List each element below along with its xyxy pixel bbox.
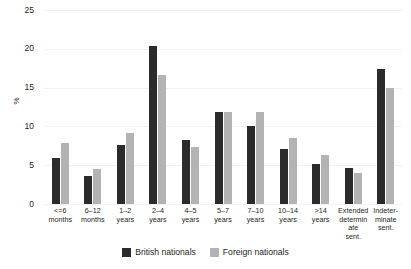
bar-group bbox=[304, 10, 337, 204]
chart-legend: British nationalsForeign nationals bbox=[0, 247, 411, 257]
x-axis-tick-label-line: years bbox=[175, 216, 206, 225]
legend-label: British nationals bbox=[135, 247, 196, 257]
bar bbox=[61, 143, 69, 204]
x-axis-tick-label-line: sent. bbox=[370, 224, 401, 233]
x-axis-tick-label: 2–4years bbox=[142, 207, 175, 241]
bar-group bbox=[44, 10, 77, 204]
x-axis-tick-label-line: years bbox=[305, 216, 336, 225]
plot-area bbox=[44, 10, 402, 204]
x-axis-tick-label: 6–12months bbox=[77, 207, 110, 241]
bar-group bbox=[77, 10, 110, 204]
x-axis-tick-label: 5–7years bbox=[207, 207, 240, 241]
bar bbox=[386, 88, 394, 204]
bar-chart: % 0510152025 <=6months6–12months1–2years… bbox=[0, 0, 411, 269]
y-axis-tick-label: 25 bbox=[4, 6, 34, 15]
bar-group bbox=[369, 10, 402, 204]
bar bbox=[52, 158, 60, 204]
legend-entry: British nationals bbox=[122, 247, 196, 257]
bar bbox=[280, 149, 288, 204]
x-axis-tick-label-line: years bbox=[143, 216, 174, 225]
y-axis-tick-label: 5 bbox=[4, 161, 34, 170]
gridline bbox=[44, 204, 402, 205]
bar bbox=[289, 138, 297, 204]
bar bbox=[345, 168, 353, 204]
legend-swatch-icon bbox=[210, 248, 219, 257]
x-axis-tick-label-line: years bbox=[208, 216, 239, 225]
legend-label: Foreign nationals bbox=[223, 247, 289, 257]
bar bbox=[117, 145, 125, 204]
bar-group bbox=[272, 10, 305, 204]
x-axis-tick-label-line: sent. bbox=[338, 233, 369, 242]
bar bbox=[93, 169, 101, 204]
y-axis-tick-label: 15 bbox=[4, 83, 34, 92]
x-axis-tick-label-line: months bbox=[78, 216, 109, 225]
bar bbox=[191, 147, 199, 204]
bar-group bbox=[337, 10, 370, 204]
x-axis-tick-label: 1–2years bbox=[109, 207, 142, 241]
x-axis-tick-label: 4–5years bbox=[174, 207, 207, 241]
x-axis-tick-label-line: years bbox=[240, 216, 271, 225]
bar-group bbox=[174, 10, 207, 204]
x-axis-tick-label: <=6months bbox=[44, 207, 77, 241]
x-axis-tick-label-line: years bbox=[273, 216, 304, 225]
legend-entry: Foreign nationals bbox=[210, 247, 289, 257]
bar bbox=[182, 140, 190, 204]
bar bbox=[256, 112, 264, 204]
x-axis-tick-label: 7–10years bbox=[239, 207, 272, 241]
x-axis-tick-label-line: determinate bbox=[338, 216, 369, 233]
legend-swatch-icon bbox=[122, 248, 131, 257]
bar bbox=[149, 46, 157, 204]
bar-group bbox=[109, 10, 142, 204]
bar bbox=[224, 112, 232, 204]
bar bbox=[312, 164, 320, 204]
y-axis-tick-label: 0 bbox=[4, 200, 34, 209]
y-axis-tick-label: 10 bbox=[4, 122, 34, 131]
bar bbox=[158, 75, 166, 204]
x-axis-tick-label: Indeter-minatesent. bbox=[369, 207, 402, 241]
bar-group bbox=[239, 10, 272, 204]
bar-group bbox=[142, 10, 175, 204]
y-axis-tick-label: 20 bbox=[4, 44, 34, 53]
y-axis-title: % bbox=[12, 90, 22, 112]
bar bbox=[247, 126, 255, 204]
x-axis-tick-label-line: months bbox=[45, 216, 76, 225]
bar bbox=[354, 173, 362, 204]
x-axis-tick-label: >14years bbox=[304, 207, 337, 241]
x-axis-tick-label: 10–14years bbox=[272, 207, 305, 241]
bar bbox=[84, 176, 92, 204]
bar bbox=[126, 133, 134, 204]
x-axis-tick-label: Extendeddeterminatesent. bbox=[337, 207, 370, 241]
bar-group bbox=[207, 10, 240, 204]
x-axis-tick-label-line: years bbox=[110, 216, 141, 225]
bar bbox=[215, 112, 223, 204]
bar bbox=[377, 69, 385, 204]
x-axis-tick-labels: <=6months6–12months1–2years2–4years4–5ye… bbox=[44, 207, 402, 241]
bar-series-layer bbox=[44, 10, 402, 204]
bar bbox=[321, 155, 329, 204]
